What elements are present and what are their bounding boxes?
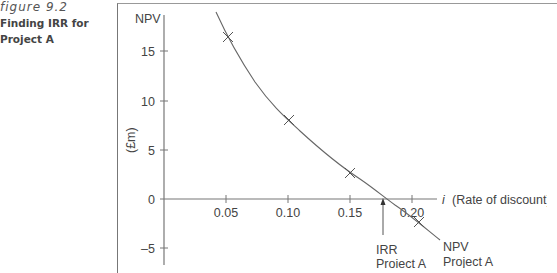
x-tick-labels: 0.05 0.10 0.15 0.20 — [214, 206, 424, 220]
svg-text:0: 0 — [148, 193, 155, 207]
svg-text:0.10: 0.10 — [276, 206, 300, 220]
svg-text:0.15: 0.15 — [338, 206, 362, 220]
y-axis-title: NPV — [135, 12, 161, 26]
svg-text:0.05: 0.05 — [214, 206, 238, 220]
y-tick-labels: 15 10 5 0 –5 — [141, 45, 155, 256]
irr-label-line2: Project A — [376, 257, 427, 268]
irr-label-line1: IRR — [376, 243, 398, 257]
svg-text:5: 5 — [148, 144, 155, 158]
svg-text:–5: –5 — [141, 242, 155, 256]
x-axis-title: (Rate of discount) — [452, 193, 547, 207]
data-markers — [223, 32, 424, 227]
x-axis-title-i: i — [442, 193, 446, 207]
curve-label-line1: NPV — [443, 240, 469, 254]
svg-text:15: 15 — [141, 45, 155, 59]
x-marker-icon — [284, 115, 294, 125]
curve-label-line2: Project A — [443, 255, 494, 268]
x-marker-icon — [223, 32, 233, 42]
svg-text:10: 10 — [141, 95, 155, 109]
x-marker-icon — [345, 168, 355, 178]
y-axis-unit: (£m) — [124, 127, 138, 153]
